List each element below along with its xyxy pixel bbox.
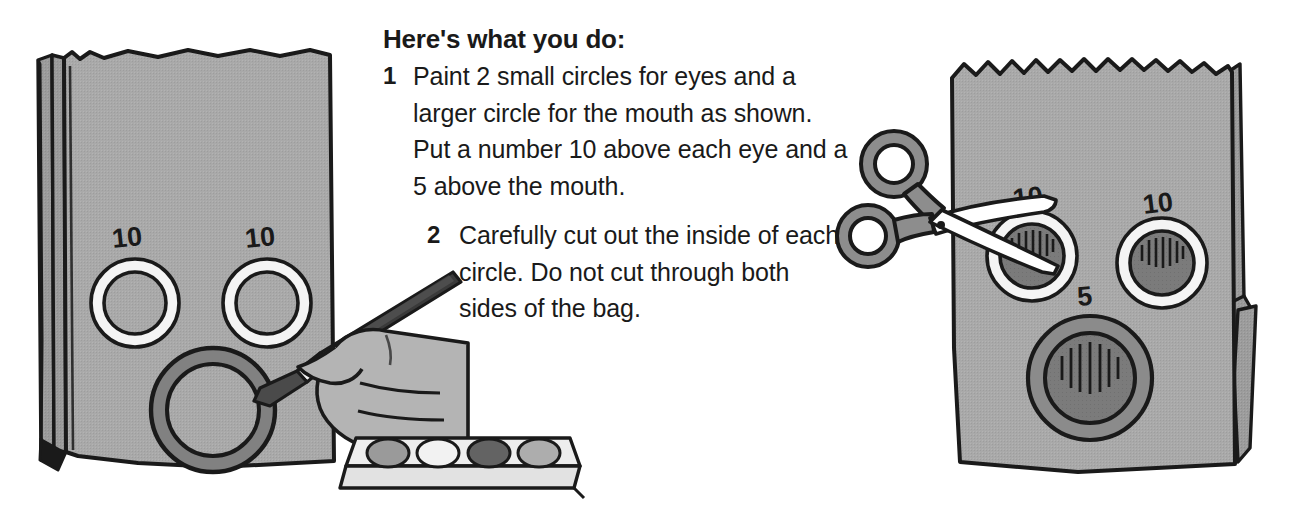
mouth-label-5: 5: [1076, 281, 1094, 312]
illustration-page: 10 10: [0, 0, 1314, 509]
instruction-step-1: 1 Paint 2 small circles for eyes and a l…: [383, 58, 853, 204]
paint-well-3: [468, 439, 510, 467]
paint-well-1: [367, 439, 409, 467]
step-2-text: Carefully cut out the inside of each cir…: [459, 217, 853, 327]
instruction-step-2: 2 Carefully cut out the inside of each c…: [427, 217, 853, 327]
paint-well-4: [518, 439, 560, 467]
cutout-eye-hole-right: [1117, 218, 1207, 308]
scissors-pivot: [937, 221, 945, 229]
eye-label-right-10-cut: 10: [1141, 187, 1174, 220]
instructions-block: Here's what you do: 1 Paint 2 small circ…: [383, 22, 853, 327]
paint-tray: [334, 432, 584, 502]
page-heading: Here's what you do:: [383, 22, 853, 56]
eye-label-right-10: 10: [243, 221, 276, 254]
scissors: [830, 124, 1070, 284]
cutout-mouth-hole: [1028, 316, 1152, 440]
eye-label-left-10: 10: [110, 221, 143, 254]
hand: [298, 330, 468, 445]
painted-eye-ring-left: [91, 259, 179, 347]
step-1-number: 1: [383, 58, 413, 94]
step-2-number: 2: [427, 217, 459, 253]
step-1-text: Paint 2 small circles for eyes and a lar…: [413, 58, 853, 204]
paint-well-2: [417, 439, 459, 467]
bag-gusset: [38, 55, 66, 470]
